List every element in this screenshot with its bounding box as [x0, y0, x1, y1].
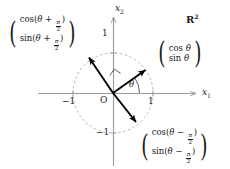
right-paren: ) — [200, 133, 207, 159]
left-paren: ( — [158, 40, 165, 66]
left-paren: ( — [9, 20, 16, 46]
left-paren: ( — [141, 133, 148, 159]
unit-circle-rotation-diagram: x2 x1 R2 1 −1 1 −1 O θ ( cos(θ + π2) sin… — [0, 0, 230, 169]
angle-label-theta: θ — [129, 80, 134, 89]
vector-row-sin: sin(θ + π2) — [20, 34, 65, 52]
vector-theta-minus-half-pi — [113, 93, 136, 122]
space-label-r2: R2 — [186, 14, 199, 25]
tick-label-x-negative: −1 — [62, 97, 75, 106]
vector-row-sin: sin(θ − π2) — [152, 147, 197, 165]
right-paren: ) — [194, 40, 201, 66]
tick-label-y-positive: 1 — [102, 29, 108, 38]
origin-label: O — [100, 96, 107, 105]
vector-label-theta-minus-half-pi: ( cos(θ − π2) sin(θ − π2) ) — [139, 128, 210, 165]
vector-row-cos: cos(θ − π2) — [152, 128, 197, 146]
vector-label-theta-plus-half-pi: ( cos(θ + π2) sin(θ + π2) ) — [7, 15, 78, 52]
right-paren: ) — [68, 20, 75, 46]
vector-row-cos: cos(θ + π2) — [20, 15, 65, 33]
angle-arc-theta — [135, 78, 140, 93]
x-axis-label: x1 — [202, 88, 211, 99]
tick-label-y-negative: −1 — [96, 128, 109, 137]
tick-label-x-positive: 1 — [148, 97, 154, 106]
vector-theta-plus-half-pi — [89, 58, 113, 94]
vector-label-theta: ( cos θ sin θ ) — [156, 40, 204, 66]
right-angle-marker — [110, 69, 121, 76]
y-axis-label: x2 — [115, 4, 124, 15]
vector-row-cos: cos θ — [169, 44, 191, 53]
vector-row-sin: sin θ — [169, 54, 191, 63]
